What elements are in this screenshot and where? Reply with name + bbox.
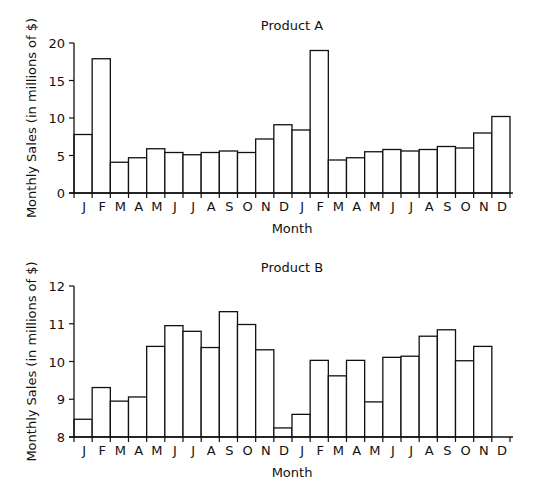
bar — [147, 149, 165, 193]
x-tick-label: O — [460, 443, 470, 458]
x-tick-label: J — [299, 443, 304, 458]
x-tick-label: N — [261, 199, 271, 214]
x-tick-label: O — [242, 199, 252, 214]
y-tick-label: 20 — [48, 36, 65, 51]
bar — [383, 150, 401, 194]
bar — [219, 151, 237, 193]
x-tick-label: M — [115, 443, 126, 458]
x-tick-label: J — [81, 443, 86, 458]
bar — [456, 148, 474, 193]
x-tick-label: J — [190, 443, 195, 458]
x-tick-label: S — [225, 443, 233, 458]
y-tick-label: 8 — [57, 430, 65, 445]
x-tick-label: J — [390, 443, 395, 458]
bar — [383, 357, 401, 437]
y-tick-label: 15 — [48, 74, 65, 89]
chart-title: Product A — [261, 18, 323, 33]
x-tick-label: M — [333, 443, 344, 458]
bar — [310, 360, 328, 437]
bar — [201, 153, 219, 194]
x-tick-label: S — [225, 199, 233, 214]
bar — [419, 150, 437, 194]
bar — [437, 330, 455, 437]
bar — [219, 312, 237, 437]
bar — [401, 151, 419, 193]
x-axis-label: Month — [272, 465, 313, 480]
bar — [165, 153, 183, 194]
x-tick-label: A — [134, 199, 143, 214]
chart-title: Product B — [261, 260, 323, 275]
x-tick-label: J — [408, 199, 413, 214]
bar — [256, 139, 274, 193]
x-tick-label: J — [81, 199, 86, 214]
x-tick-label: M — [115, 199, 126, 214]
x-tick-label: N — [261, 443, 271, 458]
x-tick-label: O — [242, 443, 252, 458]
bar — [74, 135, 92, 194]
x-tick-label: D — [279, 199, 289, 214]
x-tick-label: F — [99, 199, 106, 214]
chart-figure: Product A05101520JFMAMJJASONDJFMAMJJASON… — [0, 0, 538, 501]
x-tick-label: D — [497, 199, 507, 214]
x-tick-label: F — [99, 443, 106, 458]
bar — [147, 346, 165, 437]
bar — [401, 356, 419, 437]
x-tick-label: A — [425, 443, 434, 458]
x-tick-label: J — [172, 199, 177, 214]
x-tick-label: A — [207, 199, 216, 214]
x-tick-label: A — [207, 443, 216, 458]
bar — [328, 376, 346, 437]
bar — [474, 133, 492, 193]
bar — [183, 155, 201, 193]
x-tick-label: N — [479, 199, 489, 214]
x-tick-label: S — [443, 199, 451, 214]
bar — [129, 397, 147, 437]
x-tick-label: M — [151, 443, 162, 458]
bar — [256, 350, 274, 437]
chart-panel-product-a: Product A05101520JFMAMJJASONDJFMAMJJASON… — [24, 18, 513, 236]
x-tick-label: A — [352, 199, 361, 214]
bar — [292, 414, 310, 437]
bar — [347, 158, 365, 193]
bar — [437, 147, 455, 194]
bar — [365, 152, 383, 193]
x-tick-label: S — [443, 443, 451, 458]
bar — [365, 402, 383, 437]
bar — [110, 162, 128, 193]
x-tick-label: J — [299, 199, 304, 214]
x-tick-label: F — [317, 443, 324, 458]
x-tick-label: D — [279, 443, 289, 458]
bar — [183, 331, 201, 437]
bar — [238, 325, 256, 437]
bar — [328, 160, 346, 193]
bar — [292, 130, 310, 193]
bar — [456, 361, 474, 437]
bar — [492, 117, 510, 194]
y-tick-label: 5 — [57, 149, 65, 164]
y-tick-label: 10 — [48, 111, 65, 126]
x-axis-label: Month — [272, 221, 313, 236]
y-axis-label: Monthly Sales (in millions of $) — [24, 261, 39, 461]
x-tick-label: F — [317, 199, 324, 214]
bar — [165, 326, 183, 437]
x-tick-label: A — [134, 443, 143, 458]
y-tick-label: 10 — [48, 355, 65, 370]
y-tick-label: 12 — [48, 279, 65, 294]
x-tick-label: J — [190, 199, 195, 214]
x-tick-label: M — [333, 199, 344, 214]
x-tick-label: D — [497, 443, 507, 458]
bar — [310, 51, 328, 194]
chart-panel-product-b: Product B89101112JFMAMJJASONDJFMAMJJASON… — [24, 260, 513, 480]
bar — [110, 401, 128, 437]
x-tick-label: O — [460, 199, 470, 214]
y-axis-label: Monthly Sales (in millions of $) — [24, 18, 39, 218]
bar — [474, 346, 492, 437]
y-tick-label: 9 — [57, 392, 65, 407]
bar — [201, 348, 219, 437]
x-tick-label: J — [172, 443, 177, 458]
bar — [129, 158, 147, 193]
bar — [92, 59, 110, 193]
y-tick-label: 11 — [48, 317, 65, 332]
x-tick-label: A — [425, 199, 434, 214]
x-tick-label: M — [369, 199, 380, 214]
